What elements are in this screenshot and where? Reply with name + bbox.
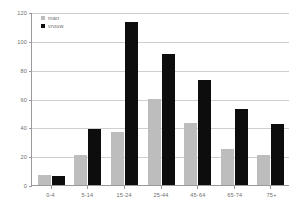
- x-tick-mark: [51, 185, 52, 189]
- x-axis-labels: 0-45-1415-2425-4445-6465-7475+: [32, 192, 290, 198]
- bar-vrouw-25-44: [162, 54, 175, 185]
- x-tick-mark: [87, 185, 88, 189]
- bar-groups: [33, 13, 289, 185]
- bar-vrouw-75+: [271, 124, 284, 185]
- y-tick-mark: [29, 157, 32, 158]
- bar-group: [70, 13, 107, 185]
- bar-group: [106, 13, 143, 185]
- x-tick-mark: [270, 185, 271, 189]
- bar-vrouw-0-4: [52, 176, 65, 185]
- x-tick-label: 15-24: [106, 192, 143, 198]
- bar-man-45-64: [184, 123, 197, 185]
- x-tick-label: 0-4: [32, 192, 69, 198]
- bar-group: [143, 13, 180, 185]
- x-tick-label: 65-74: [216, 192, 253, 198]
- x-tick-mark: [234, 185, 235, 189]
- bar-vrouw-15-24: [125, 22, 138, 185]
- y-tick-label: 0: [24, 183, 27, 189]
- bar-man-15-24: [111, 132, 124, 185]
- bar-group: [33, 13, 70, 185]
- y-tick-mark: [29, 13, 32, 14]
- x-tick-label: 25-44: [143, 192, 180, 198]
- y-tick-mark: [29, 186, 32, 187]
- y-tick-label: 100: [17, 39, 27, 45]
- bar-group: [252, 13, 289, 185]
- legend-item-vrouw: vrouw: [41, 23, 64, 29]
- plot-area: 020406080100120: [31, 13, 289, 186]
- y-tick-label: 40: [20, 125, 27, 131]
- bar-vrouw-65-74: [235, 109, 248, 185]
- y-tick-mark: [29, 100, 32, 101]
- bar-group: [179, 13, 216, 185]
- x-tick-mark: [161, 185, 162, 189]
- y-tick-label: 20: [20, 154, 27, 160]
- legend-label-man: man: [48, 15, 59, 21]
- bar-man-5-14: [74, 155, 87, 185]
- y-tick-mark: [29, 128, 32, 129]
- y-tick-mark: [29, 42, 32, 43]
- chart-legend: man vrouw: [41, 15, 64, 29]
- x-tick-label: 45-64: [179, 192, 216, 198]
- x-tick-mark: [124, 185, 125, 189]
- y-tick-mark: [29, 71, 32, 72]
- x-tick-label: 75+: [253, 192, 290, 198]
- x-tick-label: 5-14: [69, 192, 106, 198]
- bar-chart: 020406080100120 0-45-1415-2425-4445-6465…: [0, 0, 302, 217]
- bar-man-0-4: [38, 175, 51, 185]
- bar-vrouw-5-14: [88, 129, 101, 185]
- legend-item-man: man: [41, 15, 64, 21]
- legend-swatch-man-icon: [41, 16, 45, 20]
- bar-vrouw-45-64: [198, 80, 211, 185]
- x-tick-mark: [197, 185, 198, 189]
- legend-label-vrouw: vrouw: [48, 23, 64, 29]
- bar-group: [216, 13, 253, 185]
- bar-man-25-44: [148, 99, 161, 186]
- y-tick-label: 60: [20, 97, 27, 103]
- bar-man-65-74: [221, 149, 234, 185]
- y-tick-label: 80: [20, 68, 27, 74]
- legend-swatch-vrouw-icon: [41, 24, 45, 28]
- bar-man-75+: [257, 155, 270, 185]
- y-tick-label: 120: [17, 10, 27, 16]
